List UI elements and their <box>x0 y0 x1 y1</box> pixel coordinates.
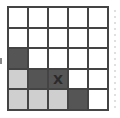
left-edge-mark <box>0 58 2 64</box>
grid-cell-r3-c4[interactable] <box>69 49 87 68</box>
grid-cell-r5-c5[interactable] <box>89 90 107 109</box>
grid-cell-r1-c5[interactable] <box>89 8 107 27</box>
grid-cell-r5-c3[interactable] <box>49 90 67 109</box>
grid-cell-r2-c2[interactable] <box>29 29 47 48</box>
edge-dotted-line <box>114 8 116 110</box>
grid-cell-r4-c3[interactable]: X <box>49 70 67 89</box>
grid-cell-r4-c4[interactable] <box>69 70 87 89</box>
grid-cell-r4-c5[interactable] <box>89 70 107 89</box>
grid-cell-r3-c2[interactable] <box>29 49 47 68</box>
grid-cell-r1-c4[interactable] <box>69 8 87 27</box>
grid-cell-r1-c1[interactable] <box>9 8 27 27</box>
grid-cell-r5-c1[interactable] <box>9 90 27 109</box>
grid-cell-r1-c2[interactable] <box>29 8 47 27</box>
grid-cell-r3-c3[interactable] <box>49 49 67 68</box>
grid-cell-r2-c4[interactable] <box>69 29 87 48</box>
grid-cell-r2-c1[interactable] <box>9 29 27 48</box>
puzzle-grid: X <box>7 6 109 111</box>
grid-cell-r5-c2[interactable] <box>29 90 47 109</box>
grid-cell-r3-c5[interactable] <box>89 49 107 68</box>
grid-cell-r2-c5[interactable] <box>89 29 107 48</box>
grid-cell-r3-c1[interactable] <box>9 49 27 68</box>
grid-cell-r4-c1[interactable] <box>9 70 27 89</box>
grid-cell-r5-c4[interactable] <box>69 90 87 109</box>
grid-cell-r2-c3[interactable] <box>49 29 67 48</box>
grid-cell-r4-c2[interactable] <box>29 70 47 89</box>
grid-cell-r1-c3[interactable] <box>49 8 67 27</box>
